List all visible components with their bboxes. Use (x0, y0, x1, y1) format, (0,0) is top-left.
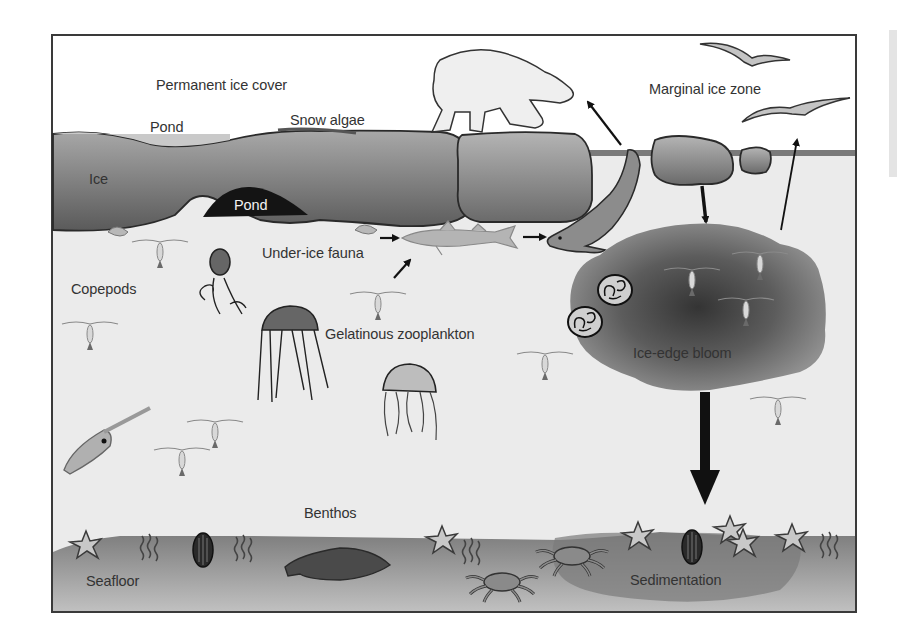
label-gelatinous-zooplankton: Gelatinous zooplankton (325, 326, 474, 342)
label-copepods: Copepods (71, 281, 136, 297)
label-sedimentation: Sedimentation (630, 572, 721, 588)
label-ice: Ice (89, 171, 108, 187)
ice-floe-small (740, 147, 771, 173)
label-pond-under: Pond (234, 197, 267, 213)
ctenophore (210, 249, 230, 275)
label-pond-surface: Pond (150, 119, 183, 135)
ice-floe-medium (652, 136, 734, 185)
ice-floe-large (458, 132, 593, 222)
label-permanent-ice-cover: Permanent ice cover (156, 77, 287, 93)
label-ice-edge-bloom: Ice-edge bloom (633, 345, 732, 361)
label-snow-algae: Snow algae (290, 112, 365, 128)
label-under-ice-fauna: Under-ice fauna (262, 245, 364, 261)
label-seafloor: Seafloor (86, 573, 139, 589)
label-marginal-ice-zone: Marginal ice zone (649, 81, 761, 97)
ice-edge-bloom (570, 223, 826, 390)
arctic-food-web-diagram (0, 0, 897, 629)
label-benthos: Benthos (304, 505, 357, 521)
